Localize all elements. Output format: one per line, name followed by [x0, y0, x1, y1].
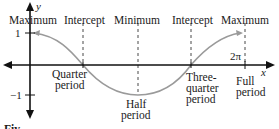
x-axis-right-arrow-icon: [266, 61, 275, 69]
y-axis-down-arrow-icon: [26, 110, 34, 119]
label-quarter-line2: period: [55, 79, 85, 92]
label-intercept-1: Intercept: [64, 14, 106, 27]
x-tick-2pi: 2π: [230, 50, 242, 62]
y-tick-1: 1: [15, 27, 21, 39]
label-maximum-start: Maximum: [9, 14, 57, 26]
label-minimum: Minimum: [114, 14, 160, 26]
y-tick-neg1: −1: [10, 89, 22, 101]
curve-arrow-right-icon: [236, 30, 243, 36]
y-axis-up-arrow-icon: [26, 2, 34, 11]
label-full-line2: period: [236, 86, 266, 99]
label-intercept-2: Intercept: [172, 14, 214, 27]
label-maximum-end: Maximum: [221, 14, 269, 26]
label-half-line2: period: [121, 109, 151, 122]
x-axis-left-arrow-icon: [3, 61, 12, 69]
y-axis-label: y: [35, 0, 41, 12]
label-three-quarter-line3: period: [186, 93, 216, 106]
caption-fragment: Fiv: [4, 123, 20, 129]
guide-lines: [83, 23, 245, 95]
cosine-key-points-diagram: y x 1 −1 2π Maximum Intercept Minimum In…: [0, 0, 279, 129]
x-axis-label: x: [260, 66, 266, 78]
